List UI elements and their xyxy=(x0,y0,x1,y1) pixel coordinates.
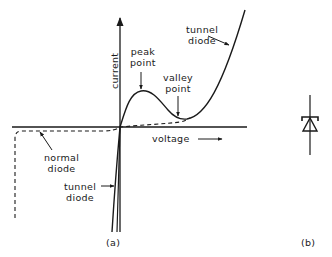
normal-diode-label-line2: diode xyxy=(44,163,79,174)
peak-point-label: peak point xyxy=(130,46,156,68)
current-axis-label: current xyxy=(109,53,120,89)
panel-a-caption: (a) xyxy=(106,237,120,248)
tunnel-diode-bottom-label: tunnel diode xyxy=(64,181,96,203)
valley-point-label-line2: point xyxy=(163,83,193,94)
tunnel-diode-figure xyxy=(0,0,332,257)
tunnel-diode-bottom-label-line1: tunnel xyxy=(64,181,96,192)
peak-point-label-line2: point xyxy=(130,57,156,68)
voltage-axis-label: voltage xyxy=(152,133,190,144)
valley-point-label: valley point xyxy=(163,72,193,94)
panel-b-caption: (b) xyxy=(301,237,315,248)
tunnel-diode-top-label-line2: diode xyxy=(186,35,218,46)
tunnel-diode-top-label: tunnel diode xyxy=(186,24,218,46)
normal-diode-label: normal diode xyxy=(44,152,79,174)
tunnel-diode-symbol-icon xyxy=(302,95,318,155)
normal-diode-leader xyxy=(40,132,52,150)
normal-diode-label-line1: normal xyxy=(44,152,79,163)
tunnel-diode-bottom-label-line2: diode xyxy=(64,192,96,203)
tunnel-diode-top-label-line1: tunnel xyxy=(186,24,218,35)
valley-point-label-line1: valley xyxy=(163,72,193,83)
peak-point-label-line1: peak xyxy=(130,46,156,57)
current-axis-arrow-icon xyxy=(117,17,124,26)
